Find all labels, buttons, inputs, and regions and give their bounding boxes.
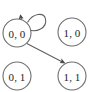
transition-line (27, 44, 63, 63)
node-1-1[interactable]: 1, 1 (58, 62, 86, 90)
node-1-0-label: 1, 0 (64, 27, 81, 39)
node-0-1[interactable]: 0, 1 (3, 62, 31, 90)
diagram-canvas: 0, 0 1, 0 0, 1 1, 1 (0, 0, 90, 92)
state-diagram: 0, 0 1, 0 0, 1 1, 1 (0, 0, 90, 92)
node-0-0[interactable]: 0, 0 (3, 19, 31, 47)
node-0-0-label: 0, 0 (9, 28, 26, 40)
edge-00-to-11 (27, 44, 66, 64)
node-1-1-label: 1, 1 (64, 71, 81, 83)
node-1-0[interactable]: 1, 0 (58, 18, 86, 46)
node-0-1-label: 0, 1 (9, 71, 26, 83)
